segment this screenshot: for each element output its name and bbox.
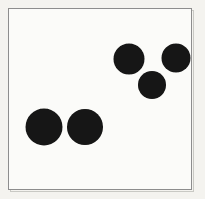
figure-container: Dot pattern figure Five solid black fill… — [0, 0, 205, 199]
data-point-dot — [67, 109, 103, 145]
data-point-dot — [162, 44, 191, 73]
data-point-dot — [138, 71, 166, 99]
border-rectangle — [9, 9, 192, 190]
data-point-dot — [114, 44, 145, 75]
data-point-dot — [26, 109, 63, 146]
dot-pattern-figure — [0, 0, 205, 199]
